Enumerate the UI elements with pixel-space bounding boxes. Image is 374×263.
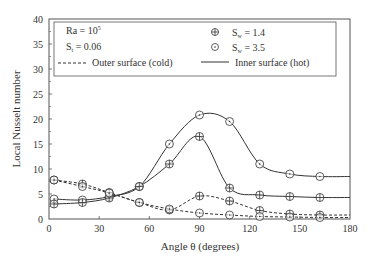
circle-plus-marker-icon — [226, 184, 234, 192]
circle-dot-marker-icon — [286, 213, 294, 221]
circle-plus-marker-icon — [226, 197, 234, 205]
legend-sw14-label: Sw = 1.4 — [232, 27, 265, 39]
circle-dot-marker-icon — [286, 170, 294, 178]
nusselt-chart: 0510152025303540 0306090120150180 Local … — [0, 0, 374, 263]
y-tick-label: 10 — [33, 164, 43, 175]
circle-plus-marker-icon — [78, 199, 86, 207]
y-axis-label: Local Nusselt number — [10, 70, 22, 167]
series-line — [54, 113, 350, 200]
circle-plus-marker-icon — [256, 191, 264, 199]
circle-plus-icon — [212, 29, 219, 36]
circle-dot-marker-icon — [196, 111, 204, 119]
st-annotation: St = 0.06 — [66, 41, 101, 53]
circle-dot-marker-icon — [256, 160, 264, 168]
circle-plus-marker-icon — [50, 200, 58, 208]
x-tick-label: 180 — [343, 223, 358, 234]
circle-dot-marker-icon — [316, 173, 324, 181]
circle-plus-marker-icon — [316, 194, 324, 202]
x-tick-label: 60 — [144, 223, 154, 234]
series-0 — [50, 111, 350, 204]
y-tick-label: 30 — [33, 64, 43, 75]
circle-plus-marker-icon — [286, 193, 294, 201]
circle-plus-marker-icon — [196, 133, 204, 141]
circle-dot-marker-icon — [105, 189, 113, 197]
circle-plus-marker-icon — [196, 192, 204, 200]
x-tick-label: 150 — [292, 223, 307, 234]
legend-outer-label: Outer surface (cold) — [92, 57, 173, 69]
circle-dot-marker-icon — [165, 205, 173, 213]
legend: Ra = 105 St = 0.06 Outer surface (cold) … — [54, 22, 336, 76]
circle-plus-marker-icon — [135, 183, 143, 191]
circle-dot-marker-icon — [196, 209, 204, 217]
ra-annotation: Ra = 105 — [66, 25, 101, 36]
circle-dot-marker-icon — [135, 199, 143, 207]
circle-dot-marker-icon — [226, 118, 234, 126]
x-tick-label: 90 — [195, 223, 205, 234]
x-tick-label: 30 — [94, 223, 104, 234]
circle-dot-marker-icon — [165, 140, 173, 148]
y-tick-label: 25 — [33, 89, 43, 100]
circle-dot-marker-icon — [78, 183, 86, 191]
x-tick-label: 0 — [47, 223, 52, 234]
series-layer — [50, 111, 350, 222]
y-tick-label: 0 — [38, 214, 43, 225]
x-axis-label: Angle θ (degrees) — [161, 240, 240, 253]
circle-dot-marker-icon — [50, 176, 58, 184]
legend-sw35-label: Sw = 3.5 — [232, 42, 265, 54]
y-tick-label: 20 — [33, 114, 43, 125]
circle-dot-marker-icon — [226, 211, 234, 219]
y-tick-label: 35 — [33, 39, 43, 50]
x-tick-label: 120 — [242, 223, 257, 234]
circle-dot-marker-icon — [256, 213, 264, 221]
circle-plus-marker-icon — [165, 160, 173, 168]
y-tick-label: 15 — [33, 139, 43, 150]
y-tick-label: 5 — [38, 189, 43, 200]
y-tick-label: 40 — [33, 14, 43, 25]
circle-dot-marker-icon — [316, 214, 324, 222]
legend-inner-label: Inner surface (hot) — [235, 57, 309, 69]
